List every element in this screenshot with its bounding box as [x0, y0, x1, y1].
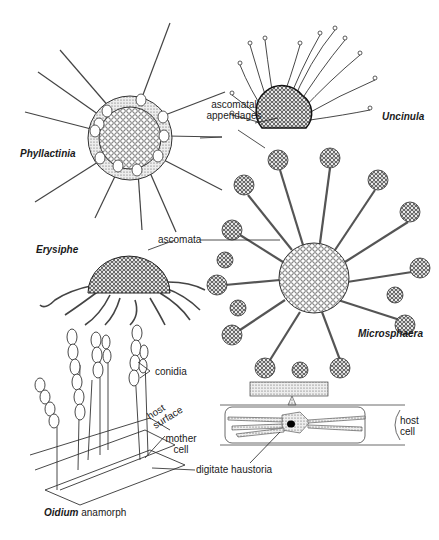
powdery-mildew-figure: Phyllactinia Uncinula Erysiphe Microspha… [0, 0, 439, 540]
phyllactinia-drawing [25, 23, 225, 232]
host-cell-drawing [220, 382, 405, 445]
microsphaera-drawing [207, 148, 430, 378]
label-digitate-haustoria: digitate haustoria [196, 464, 272, 475]
label-ascomata: ascomata [158, 234, 201, 245]
label-microsphaera: Microsphaera [358, 328, 423, 339]
label-conidia: conidia [155, 366, 187, 377]
label-host-cell: host cell [400, 415, 419, 437]
label-mother-cell: mother cell [163, 433, 199, 455]
label-erysiphe: Erysiphe [36, 244, 78, 255]
label-uncinula: Uncinula [382, 111, 424, 122]
label-ascomatal-appendages: ascomatal appendages [206, 99, 262, 121]
illustration [0, 0, 439, 540]
erysiphe-drawing [40, 256, 205, 325]
caption-oidium-anamorph: Oidium anamorph [44, 507, 126, 518]
label-phyllactinia: Phyllactinia [20, 148, 76, 159]
